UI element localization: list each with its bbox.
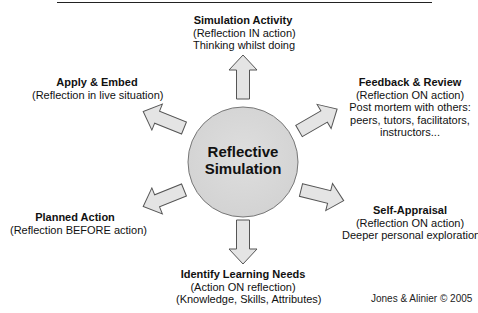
- arrow-lower-right-icon: [298, 176, 347, 214]
- node-line: instructors...: [345, 126, 475, 139]
- node-self-appraisal: Self-Appraisal (Reflection ON action) De…: [342, 204, 478, 242]
- center-label: Reflective Simulation: [188, 143, 298, 177]
- node-title: Feedback & Review: [345, 76, 475, 89]
- node-line: (Reflection IN action): [193, 27, 293, 40]
- node-apply-embed: Apply & Embed (Reflection in live situat…: [32, 76, 162, 101]
- node-line: (Reflection ON action): [345, 89, 475, 102]
- arrow-lower-left-icon: [138, 177, 189, 219]
- node-line: (Reflection in live situation): [32, 89, 162, 102]
- node-feedback-review: Feedback & Review (Reflection ON action)…: [345, 76, 475, 139]
- node-line: Post mortem with others:: [345, 101, 475, 114]
- node-title: Planned Action: [10, 211, 140, 224]
- node-line: Thinking whilst doing: [193, 39, 293, 52]
- node-line: (Action ON reflection): [176, 281, 310, 294]
- node-title: Self-Appraisal: [342, 204, 478, 217]
- center-label-line1: Reflective: [188, 143, 298, 160]
- node-line: Deeper personal exploration: [342, 229, 478, 242]
- node-simulation-activity: Simulation Activity (Reflection IN actio…: [193, 14, 293, 52]
- node-line: (Reflection BEFORE action): [10, 224, 140, 237]
- arrow-upper-right-icon: [292, 97, 344, 143]
- arrow-up-icon: [229, 55, 257, 99]
- arrow-upper-left-icon: [138, 99, 189, 141]
- node-line: (Reflection ON action): [342, 217, 478, 230]
- arrow-down-icon: [229, 220, 257, 264]
- node-line: (Knowledge, Skills, Attributes): [176, 293, 310, 306]
- node-line: peers, tutors, facilitators,: [345, 114, 475, 127]
- node-identify-learning-needs: Identify Learning Needs (Action ON refle…: [176, 268, 310, 306]
- node-title: Simulation Activity: [193, 14, 293, 27]
- copyright-credit: Jones & Alinier © 2005: [371, 293, 472, 304]
- center-label-line2: Simulation: [188, 160, 298, 177]
- node-planned-action: Planned Action (Reflection BEFORE action…: [10, 211, 140, 236]
- node-title: Apply & Embed: [32, 76, 162, 89]
- node-title: Identify Learning Needs: [176, 268, 310, 281]
